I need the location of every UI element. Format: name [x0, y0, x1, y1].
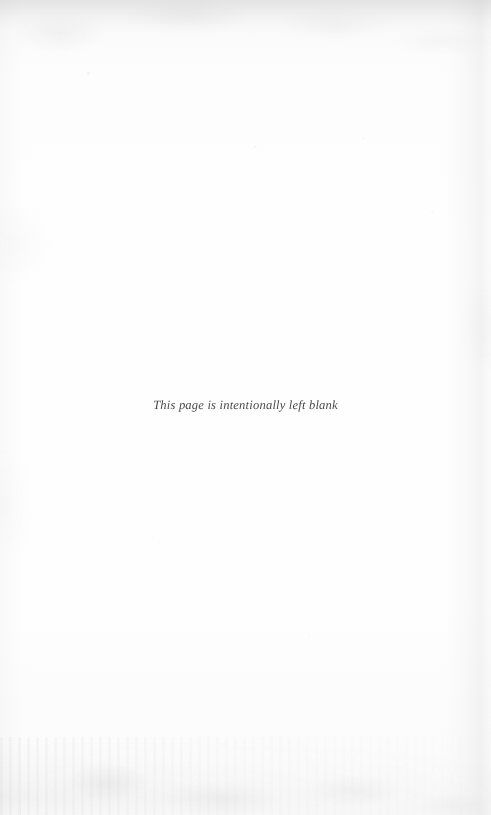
paper-background [0, 0, 491, 815]
paper-grain-texture [0, 0, 491, 815]
top-edge-shading [0, 0, 491, 34]
page-notice-container: This page is intentionally left blank [0, 0, 491, 815]
blank-page-notice: This page is intentionally left blank [153, 399, 338, 412]
left-edge-shading [0, 0, 26, 815]
bottom-edge-smudge [0, 737, 491, 815]
scanned-page: This page is intentionally left blank [0, 0, 491, 815]
right-edge-shading [445, 0, 491, 815]
